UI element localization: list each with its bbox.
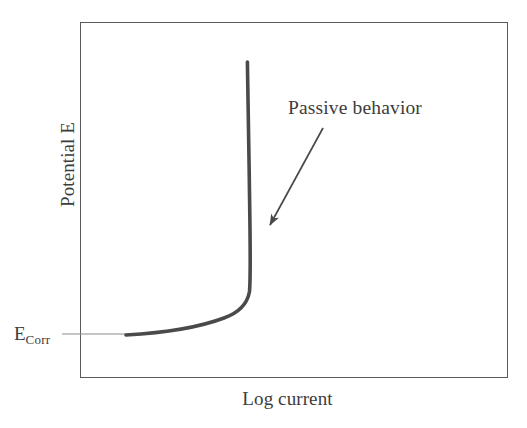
ecorr-label: ECorr xyxy=(14,324,50,346)
passive-behavior-label: Passive behavior xyxy=(288,97,422,119)
ecorr-symbol: E xyxy=(14,323,26,344)
ecorr-subscript: Corr xyxy=(26,332,51,347)
x-axis-label-container: Log current xyxy=(0,388,527,410)
y-axis-label: Potential E xyxy=(57,122,79,207)
x-axis-label: Log current xyxy=(242,388,332,409)
figure-polarization-curve: Potential E Log current ECorr Passive be… xyxy=(0,0,527,428)
plot-frame xyxy=(80,22,508,378)
